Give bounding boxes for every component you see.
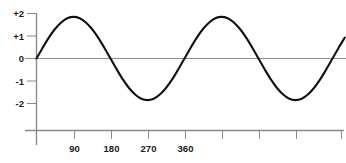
y-tick-label-plus2: +2	[13, 8, 24, 19]
y-tick-label-minus1: -1	[16, 76, 25, 87]
y-tick-label-zero: 0	[19, 53, 24, 64]
x-tick-label-270: 270	[141, 143, 157, 154]
x-tick-label-90: 90	[69, 143, 80, 154]
y-tick-label-minus2: -2	[16, 98, 24, 109]
y-tick-label-plus1: +1	[13, 31, 25, 42]
x-axis-ticks	[75, 131, 342, 140]
y-axis-ticks	[27, 14, 37, 104]
chart-canvas: +2 +1 0 -1 -2 90 180 270 360	[0, 0, 346, 163]
x-tick-label-180: 180	[104, 143, 120, 154]
x-tick-label-360: 360	[178, 143, 194, 154]
sine-wave-chart: +2 +1 0 -1 -2 90 180 270 360	[0, 0, 346, 163]
